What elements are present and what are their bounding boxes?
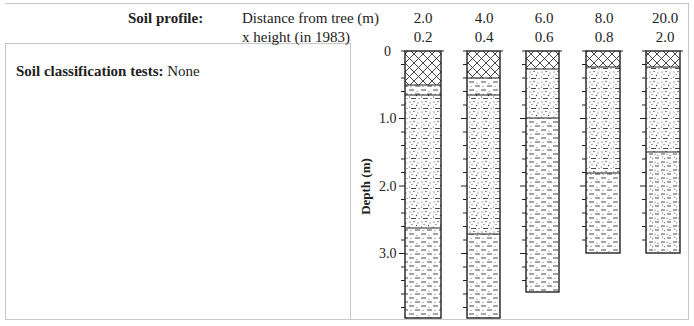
soil-profile-diagram [0, 0, 694, 326]
profile-column-2 [467, 51, 500, 318]
profile-column-3 [526, 51, 559, 292]
profile-column-5 [646, 51, 680, 253]
profile-column-1 [405, 51, 441, 318]
profile-column-4 [586, 51, 620, 253]
